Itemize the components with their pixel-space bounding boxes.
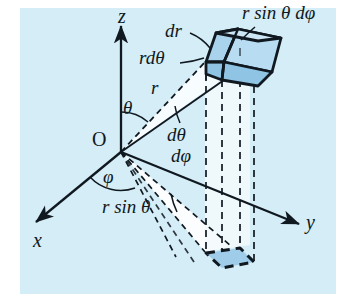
label-dr: dr: [165, 21, 182, 40]
label-r-dtheta: rdθ: [139, 48, 165, 67]
label-r: r: [151, 78, 158, 97]
label-phi: φ: [103, 167, 114, 186]
r-dtheta-leader-line: [180, 58, 204, 63]
axis-label-z: z: [118, 6, 126, 26]
figure-root: z x y O r θ φ dr rdθ r sin θ dφ dθ dφ r …: [0, 0, 344, 302]
label-r-sin-theta: r sin θ: [102, 197, 150, 216]
axis-label-y: y: [306, 212, 315, 232]
label-theta: θ: [123, 98, 132, 117]
projection-band: [205, 62, 250, 252]
label-dphi: dφ: [171, 146, 191, 165]
label-dtheta: dθ: [167, 125, 186, 144]
axis-label-x: x: [33, 230, 42, 250]
dr-leader-line: [190, 33, 210, 48]
origin-label: O: [92, 129, 106, 149]
label-r-sin-theta-dphi: r sin θ dφ: [242, 3, 315, 22]
projected-volume-element: [206, 248, 254, 268]
